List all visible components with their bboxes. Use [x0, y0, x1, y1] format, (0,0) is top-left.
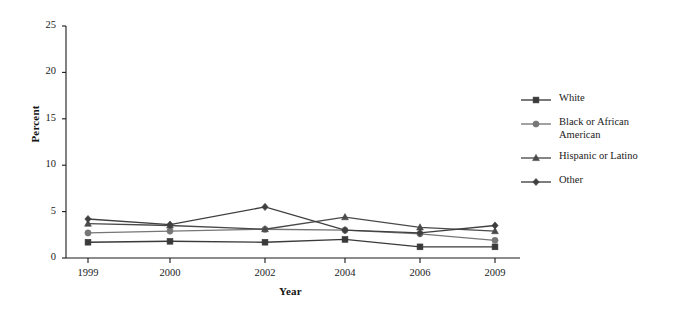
data-point	[262, 239, 268, 245]
data-point	[492, 237, 498, 243]
y-tick-label: 20	[34, 65, 56, 76]
legend-item-label: Black or African American	[553, 116, 671, 141]
triangle-marker-icon	[519, 151, 553, 165]
y-tick-label: 15	[34, 112, 56, 123]
y-tick-label: 0	[34, 251, 56, 262]
x-tick-label: 2004	[323, 267, 367, 278]
x-tick-label: 2002	[243, 267, 287, 278]
data-point	[492, 244, 498, 250]
x-tick-label: 2000	[148, 267, 192, 278]
line-chart-figure: Percent Year 0510152025 1999200020022004…	[0, 0, 675, 315]
data-point	[85, 230, 91, 236]
legend-item-black-or-african-american[interactable]: Black or African American	[519, 116, 671, 141]
legend-item-label: White	[553, 92, 585, 105]
data-point	[342, 214, 349, 220]
y-tick-label: 25	[34, 19, 56, 30]
x-tick-label: 1999	[66, 267, 110, 278]
x-tick-label: 2009	[473, 267, 517, 278]
data-point	[85, 239, 91, 245]
series-white	[85, 237, 498, 250]
data-point	[85, 215, 91, 222]
x-axis-title: Year	[279, 285, 302, 297]
data-point	[167, 228, 173, 234]
diamond-marker-icon	[519, 175, 553, 189]
data-point	[342, 237, 348, 243]
axis-lines	[66, 26, 520, 258]
x-tick-label: 2006	[398, 267, 442, 278]
y-tick-label: 5	[34, 205, 56, 216]
legend-item-other[interactable]: Other	[519, 174, 671, 189]
y-axis-ticks	[62, 26, 66, 258]
data-point	[417, 244, 423, 250]
y-tick-label: 10	[34, 158, 56, 169]
square-marker-icon	[519, 93, 553, 107]
x-axis-ticks	[88, 258, 495, 263]
circle-marker-icon	[519, 117, 553, 131]
data-series-layer	[85, 203, 499, 249]
data-point	[492, 222, 498, 229]
legend-item-white[interactable]: White	[519, 92, 671, 107]
data-point	[167, 238, 173, 244]
legend-item-label: Other	[553, 174, 583, 187]
chart-legend: WhiteBlack or African AmericanHispanic o…	[519, 92, 671, 198]
data-point	[262, 203, 268, 210]
legend-item-label: Hispanic or Latino	[553, 150, 638, 163]
legend-item-hispanic-or-latino[interactable]: Hispanic or Latino	[519, 150, 671, 165]
